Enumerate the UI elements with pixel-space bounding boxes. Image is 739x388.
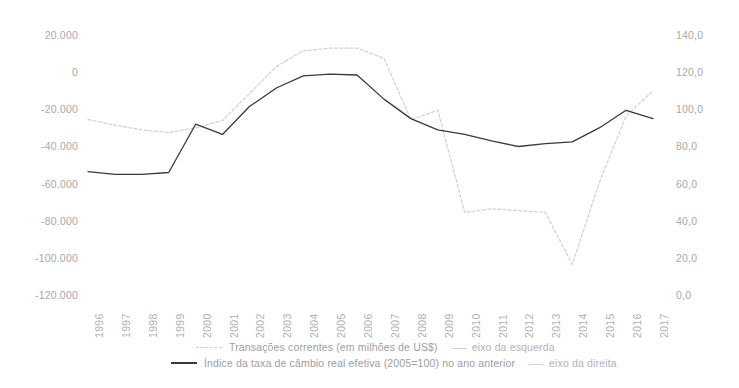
series-line-indice-cambio xyxy=(88,74,653,174)
plot-area xyxy=(0,0,739,388)
legend-axis-note-text-0: eixo da esquerda xyxy=(472,341,555,353)
legend-label-1: Índice da taxa de câmbio real efetiva (2… xyxy=(204,357,515,369)
legend-marker-solid xyxy=(171,362,197,364)
legend-item-transacoes-correntes: Transações correntes (em milhões de US$)… xyxy=(196,341,555,353)
chart-container: 20.0000-20.000-40.000-60.000-80.000-100.… xyxy=(0,0,739,388)
legend-marker-dashed xyxy=(196,347,222,348)
legend-axis-dash-1 xyxy=(529,364,543,365)
legend-axis-note-0: eixo da esquerda xyxy=(452,341,555,353)
legend-axis-dash-0 xyxy=(452,348,466,349)
legend-label-0: Transações correntes (em milhões de US$) xyxy=(229,341,438,353)
legend-axis-note-text-1: eixo da direita xyxy=(549,357,617,369)
legend-item-indice-cambio: Índice da taxa de câmbio real efetiva (2… xyxy=(171,357,617,369)
series-line-transacoes-correntes xyxy=(88,48,653,264)
legend-axis-note-1: eixo da direita xyxy=(529,357,617,369)
